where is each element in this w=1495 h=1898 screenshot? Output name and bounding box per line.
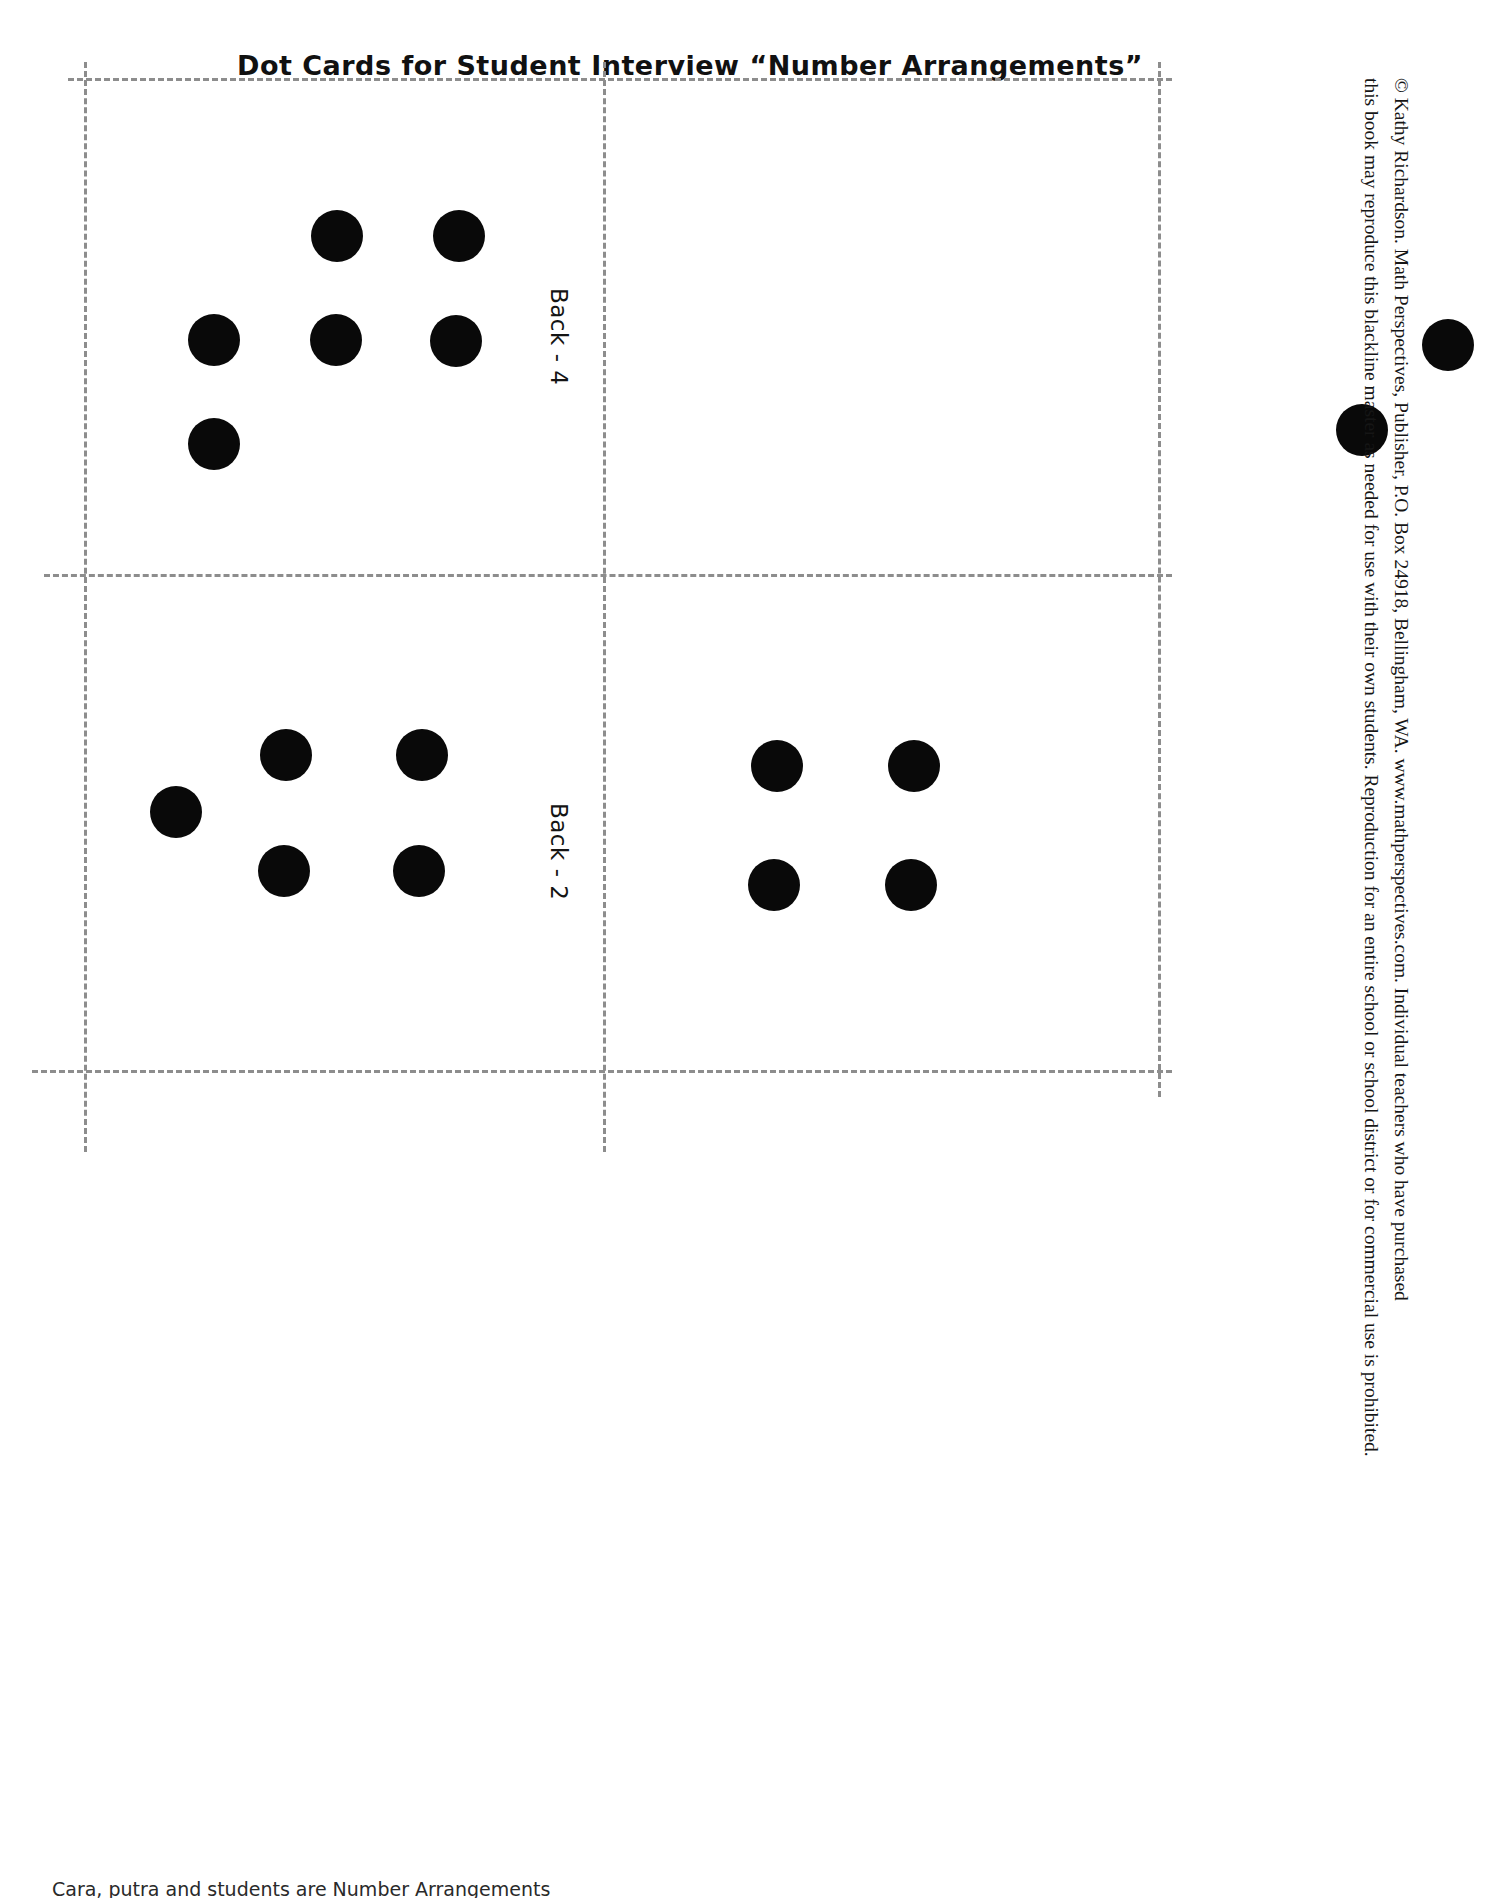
card-label-back-2: Back - 2 (546, 803, 572, 900)
dot-card-back-2: Back - 2 (0, 574, 603, 1070)
cut-line-horizontal-bottom (32, 1070, 1172, 1073)
dot (885, 859, 937, 911)
dot (396, 729, 448, 781)
dot (258, 845, 310, 897)
dot-card-back-3: Back -3 (603, 0, 1158, 574)
dot (430, 315, 482, 367)
dot (310, 314, 362, 366)
cut-line-vertical-right (1158, 62, 1161, 1097)
dot (311, 210, 363, 262)
dot (748, 859, 800, 911)
dot (188, 314, 240, 366)
dot (150, 786, 202, 838)
bottom-note: Cara, putra and students are Number Arra… (52, 1878, 550, 1898)
dot (433, 210, 485, 262)
dot-card-back-4: Back - 4 (0, 0, 603, 574)
copyright-line-2: this book may reproduce this blackline m… (1356, 78, 1386, 1858)
card-label-back-4: Back - 4 (546, 288, 572, 385)
dot (188, 418, 240, 470)
dot (751, 740, 803, 792)
dot-card-back-1: Back -1 (603, 574, 1158, 1070)
dot (260, 729, 312, 781)
copyright-line-1: © Kathy Richardson. Math Perspectives, P… (1391, 78, 1412, 1301)
dot (888, 740, 940, 792)
dot (393, 845, 445, 897)
copyright-notice: © Kathy Richardson. Math Perspectives, P… (1356, 78, 1416, 1858)
dot (1422, 319, 1474, 371)
